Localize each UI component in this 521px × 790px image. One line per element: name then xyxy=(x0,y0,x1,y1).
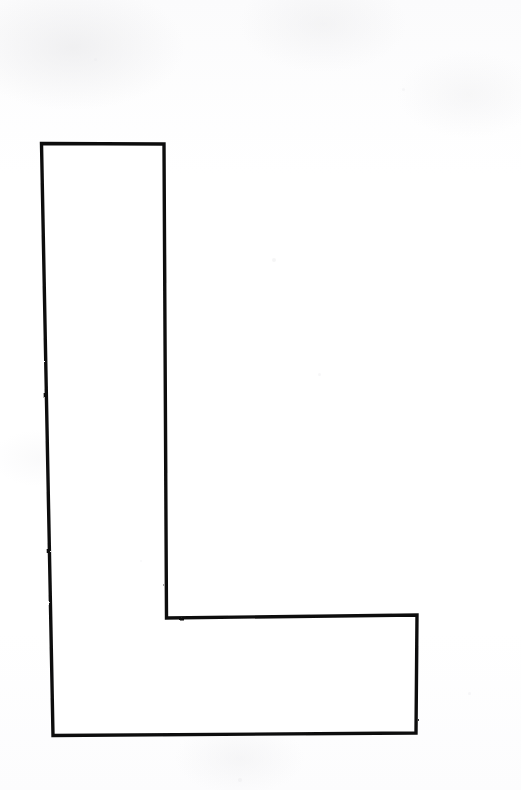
drawing-canvas xyxy=(0,0,521,790)
letter-l-outline-path xyxy=(42,144,418,736)
letter-l-shape-svg xyxy=(0,0,521,790)
